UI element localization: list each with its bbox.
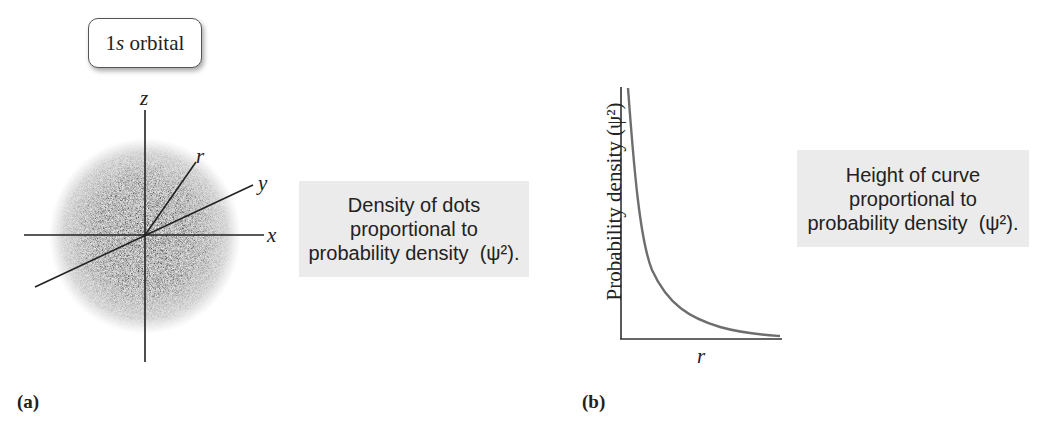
- z-axis-label: z: [140, 86, 148, 111]
- caption-line: proportional to: [808, 187, 1019, 211]
- y-axis-label: y: [258, 171, 267, 196]
- x-axis-label: x: [267, 223, 276, 248]
- caption-line: Density of dots: [309, 193, 520, 217]
- panel-label-b: (b): [582, 391, 605, 413]
- caption-line: Height of curve: [808, 163, 1019, 187]
- probability-curve: [628, 88, 780, 336]
- panel-label-a: (a): [17, 391, 39, 413]
- plot-y-axis-label: Probability density (ψ²): [602, 52, 627, 352]
- caption-dot-density: Density of dots proportional to probabil…: [299, 181, 529, 277]
- caption-line: proportional to: [309, 217, 520, 241]
- caption-line: probability density (ψ²).: [808, 211, 1019, 235]
- plot-x-axis-label: r: [697, 344, 705, 369]
- r-axis-label: r: [196, 144, 204, 169]
- caption-curve-height: Height of curve proportional to probabil…: [797, 150, 1029, 247]
- caption-line: probability density (ψ²).: [309, 241, 520, 265]
